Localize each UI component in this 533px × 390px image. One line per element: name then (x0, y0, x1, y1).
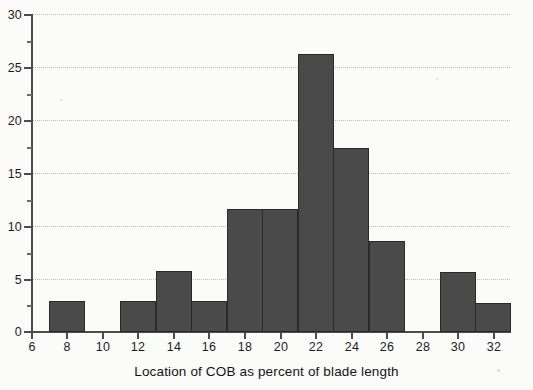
gridline-20 (33, 120, 510, 122)
y-tick-minor-7p5 (27, 253, 32, 255)
bar-20 (262, 209, 298, 332)
y-tick-minor-2p5 (27, 305, 32, 307)
x-axis-label-14: 14 (161, 340, 187, 354)
bar-26 (369, 241, 405, 332)
scan-speck (436, 78, 438, 80)
x-axis-label-26: 26 (374, 340, 400, 354)
bar-16 (191, 301, 227, 332)
y-tick-minor-22p5 (27, 94, 32, 96)
y-tick-minor-17p5 (27, 147, 32, 149)
bar-30 (440, 272, 476, 332)
scan-speck (497, 369, 500, 372)
x-tick-20 (280, 333, 282, 339)
y-tick-30 (24, 14, 32, 16)
x-tick-18 (244, 333, 246, 339)
bar-22 (298, 54, 334, 332)
bar-18 (227, 209, 263, 332)
x-tick-6 (31, 333, 33, 339)
y-axis-label-10: 10 (8, 221, 22, 233)
bar-8 (49, 301, 85, 332)
y-axis-label-5: 5 (15, 274, 22, 286)
x-tick-32 (493, 333, 495, 339)
x-axis-label-18: 18 (232, 340, 258, 354)
x-axis-label-30: 30 (445, 340, 471, 354)
x-axis-label-24: 24 (339, 340, 365, 354)
y-axis-label-0: 0 (15, 326, 22, 338)
bar-32 (475, 303, 511, 332)
gridline-30 (33, 14, 510, 16)
y-tick-minor-12p5 (27, 200, 32, 202)
x-tick-24 (351, 333, 353, 339)
x-axis-label-8: 8 (54, 340, 80, 354)
gridline-15 (33, 173, 510, 175)
bar-24 (333, 148, 369, 332)
x-axis-label-6: 6 (19, 340, 45, 354)
histogram-figure: 30 25 20 15 10 5 0 6 8 10 12 14 16 18 20… (0, 0, 533, 390)
x-axis-label-22: 22 (303, 340, 329, 354)
y-axis-label-20: 20 (8, 115, 22, 127)
x-axis-label-12: 12 (125, 340, 151, 354)
scan-speck (60, 99, 62, 101)
bar-14 (156, 271, 192, 332)
x-tick-14 (173, 333, 175, 339)
x-tick-22 (315, 333, 317, 339)
bar-12 (120, 301, 156, 332)
x-tick-26 (386, 333, 388, 339)
x-tick-16 (208, 333, 210, 339)
x-axis-label-10: 10 (90, 340, 116, 354)
y-tick-10 (24, 226, 32, 228)
y-axis-label-25: 25 (8, 62, 22, 74)
y-axis-label-15: 15 (8, 168, 22, 180)
x-tick-30 (457, 333, 459, 339)
x-axis-label-32: 32 (481, 340, 507, 354)
y-tick-minor-27p5 (27, 41, 32, 43)
x-tick-8 (66, 333, 68, 339)
y-tick-5 (24, 279, 32, 281)
x-axis-title: Location of COB as percent of blade leng… (0, 364, 533, 379)
x-tick-28 (422, 333, 424, 339)
x-tick-10 (102, 333, 104, 339)
gridline-25 (33, 67, 510, 69)
x-axis-label-16: 16 (196, 340, 222, 354)
y-tick-20 (24, 120, 32, 122)
y-tick-15 (24, 173, 32, 175)
y-tick-25 (24, 67, 32, 69)
y-axis-label-30: 30 (8, 9, 22, 21)
x-axis-label-20: 20 (268, 340, 294, 354)
x-axis-label-28: 28 (410, 340, 436, 354)
x-tick-12 (137, 333, 139, 339)
